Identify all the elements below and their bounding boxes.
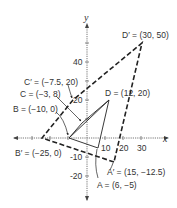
label-d-prime: D′ = (30, 50) bbox=[122, 30, 169, 40]
leader-b bbox=[56, 112, 68, 135]
y-axis-label: y bbox=[83, 12, 89, 23]
y-tick-40: 40 bbox=[73, 57, 83, 67]
y-tick-neg20: -20 bbox=[70, 171, 83, 181]
y-tick-neg10: -10 bbox=[70, 152, 83, 162]
original-diagonal bbox=[69, 100, 109, 138]
x-axis-label: x bbox=[162, 133, 168, 144]
label-b-prime: B′ = (−25, 0) bbox=[15, 148, 62, 158]
original-quadrilateral bbox=[69, 100, 109, 148]
label-c-prime: C′ = (−7.5, 20) bbox=[24, 77, 78, 87]
label-a: A = (6, −5) bbox=[97, 180, 137, 190]
leader-a bbox=[96, 149, 98, 178]
x-tick-10: 10 bbox=[101, 143, 111, 153]
label-a-prime: A′ = (15, −12.5) bbox=[107, 167, 165, 177]
x-tick-30: 30 bbox=[137, 143, 147, 153]
label-b: B = (−10, 0) bbox=[13, 104, 58, 114]
label-c: C = (−3, 8) bbox=[20, 89, 61, 99]
dilation-diagram: 10 20 30 40 20 -10 -20 x y D′ = (30, 50)… bbox=[0, 0, 177, 208]
label-d: D = (12, 20) bbox=[105, 88, 150, 98]
x-tick-20: 20 bbox=[119, 143, 129, 153]
